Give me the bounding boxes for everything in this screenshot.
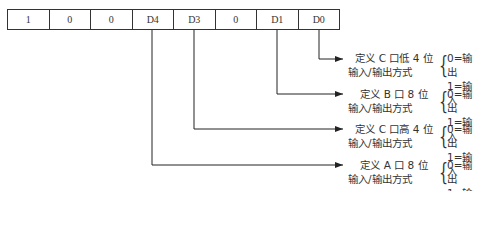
desc-port-a: 定义 A 口 8 位 输入/输出方式	[348, 158, 440, 186]
option-input: 1=输入	[447, 186, 481, 191]
arrow-d1	[277, 30, 343, 94]
option-output: 0=输出	[447, 122, 481, 150]
desc-subtitle: 输入/输出方式	[348, 172, 440, 186]
desc-subtitle: 输入/输出方式	[348, 65, 440, 79]
arrow-d4	[152, 30, 343, 165]
option-output: 0=输出	[447, 158, 481, 186]
desc-title: 定义 A 口 8 位	[348, 158, 440, 172]
arrow-d0	[319, 30, 343, 59]
desc-subtitle: 输入/输出方式	[348, 136, 440, 150]
desc-title: 定义 B 口 8 位	[348, 87, 440, 101]
option-output: 0=输出	[447, 51, 481, 79]
desc-title: 定义 C 口高 4 位	[348, 122, 440, 136]
desc-title: 定义 C 口低 4 位	[348, 51, 440, 65]
desc-subtitle: 输入/输出方式	[348, 101, 440, 115]
arrow-d3	[194, 30, 343, 129]
option-output: 0=输出	[447, 87, 481, 115]
desc-port-c-high: 定义 C 口高 4 位 输入/输出方式	[348, 122, 440, 150]
options-port-a: 0=输出 1=输入	[447, 158, 481, 191]
desc-port-c-low: 定义 C 口低 4 位 输入/输出方式	[348, 51, 440, 79]
desc-port-b: 定义 B 口 8 位 输入/输出方式	[348, 87, 440, 115]
